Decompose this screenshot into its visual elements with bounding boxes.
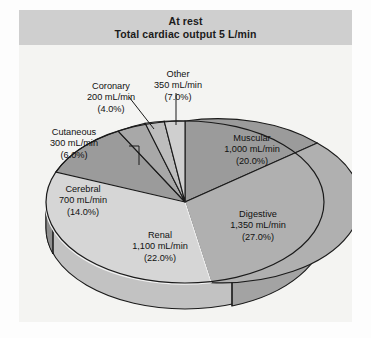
slice-label-cerebral-percent: (14.0%): [37, 207, 129, 218]
slice-label-other-value: 350 mL/min: [139, 80, 217, 91]
chart-screenshot: At rest Total cardiac output 5 L/min: [0, 0, 371, 338]
slice-label-renal-name: Renal: [112, 230, 208, 241]
slice-label-muscular-value: 1,000 mL/min: [202, 144, 302, 155]
pie-chart-area: Coronary 200 mL/min (4.0%) Other 350 mL/…: [19, 45, 352, 322]
slice-label-cutaneous: Cutaneous 300 mL/min (6.0%): [25, 127, 123, 161]
title-line-2: Total cardiac output 5 L/min: [114, 28, 256, 41]
slice-label-muscular: Muscular 1,000 mL/min (20.0%): [202, 133, 302, 167]
slice-label-renal-value: 1,100 mL/min: [112, 241, 208, 252]
slice-label-muscular-percent: (20.0%): [202, 156, 302, 167]
slice-label-cutaneous-percent: (6.0%): [25, 150, 123, 161]
slice-label-cerebral-value: 700 mL/min: [37, 195, 129, 206]
slice-label-digestive-value: 1,350 mL/min: [208, 220, 308, 231]
slice-label-cerebral-name: Cerebral: [37, 184, 129, 195]
slice-label-cutaneous-name: Cutaneous: [25, 127, 123, 138]
title-line-1: At rest: [169, 15, 203, 28]
slice-label-muscular-name: Muscular: [202, 133, 302, 144]
slice-label-digestive-name: Digestive: [208, 209, 308, 220]
slice-label-other-name: Other: [139, 69, 217, 80]
slice-label-cutaneous-value: 300 mL/min: [25, 138, 123, 149]
slice-label-cerebral: Cerebral 700 mL/min (14.0%): [37, 184, 129, 218]
slice-label-coronary-percent: (4.0%): [69, 104, 153, 115]
slice-label-renal-percent: (22.0%): [112, 253, 208, 264]
slice-label-digestive-percent: (27.0%): [208, 232, 308, 243]
slice-label-other: Other 350 mL/min (7.0%): [139, 69, 217, 103]
chart-title-bar: At rest Total cardiac output 5 L/min: [19, 10, 352, 45]
chart-panel: At rest Total cardiac output 5 L/min: [19, 10, 352, 322]
slice-label-other-percent: (7.0%): [139, 92, 217, 103]
slice-label-digestive: Digestive 1,350 mL/min (27.0%): [208, 209, 308, 243]
slice-label-renal: Renal 1,100 mL/min (22.0%): [112, 230, 208, 264]
